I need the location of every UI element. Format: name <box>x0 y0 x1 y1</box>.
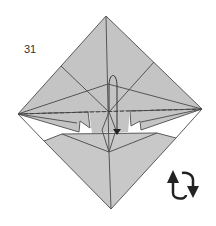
turn-over-icon <box>167 170 199 199</box>
diagram-canvas <box>0 0 216 226</box>
upper-paper-layer <box>18 16 202 114</box>
